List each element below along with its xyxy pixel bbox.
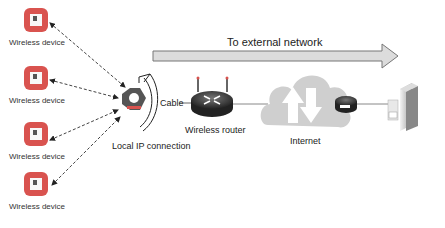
hub-icon <box>122 88 146 110</box>
wireless-device-icon <box>24 172 48 196</box>
network-diagram <box>0 0 445 228</box>
router-label: Wireless router <box>185 125 246 135</box>
device-label: Wireless device <box>9 96 65 105</box>
wireless-device-icon <box>24 122 48 146</box>
banner-label: To external network <box>227 36 322 48</box>
wireless-device-icon <box>24 66 48 90</box>
device-label: Wireless device <box>9 202 65 211</box>
server-icon <box>388 83 418 131</box>
device-label: Wireless device <box>9 38 65 47</box>
edge-router-icon <box>335 96 357 113</box>
device-label: Wireless device <box>9 152 65 161</box>
wireless-device-icon <box>24 8 48 32</box>
hub-label: Local IP connection <box>112 141 190 151</box>
cable-label: Cable <box>160 98 184 108</box>
wireless-router-icon <box>191 77 233 118</box>
internet-label: Internet <box>290 136 321 146</box>
